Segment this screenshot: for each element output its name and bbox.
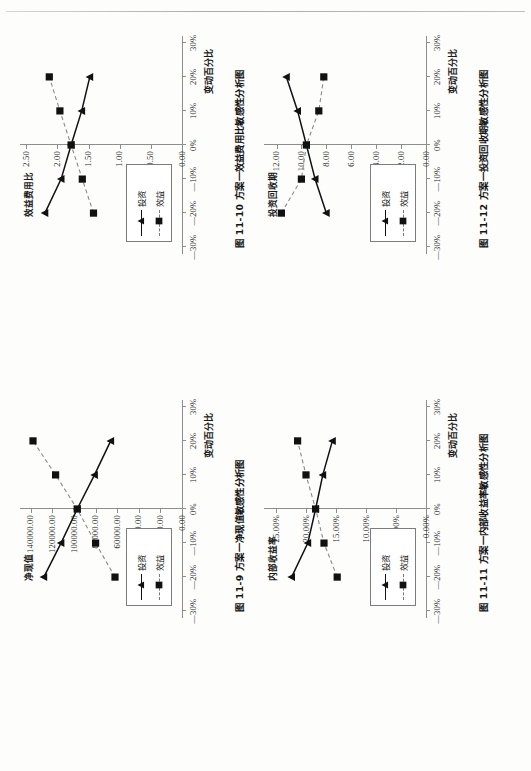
data-point-square <box>303 141 310 148</box>
data-point-triangle <box>57 175 65 183</box>
page-header-rule <box>6 11 525 12</box>
data-point-square <box>46 73 53 80</box>
legend-label: 投资 <box>135 191 147 207</box>
data-point-triangle <box>57 539 65 547</box>
data-point-square <box>302 471 309 478</box>
scanned-page: —30%—20%—10%0%10%20%30%0.0020000.0040000… <box>0 0 531 771</box>
data-point-square <box>52 471 59 478</box>
legend-label: 投资 <box>379 191 391 207</box>
legend-item-1: 效益 <box>397 191 409 236</box>
chart-legend <box>370 528 416 606</box>
legend-swatch-square <box>399 574 408 600</box>
figure-caption: 图 11-12 方案一投资回收期敏感性分析图 <box>476 70 490 248</box>
triangle-marker-icon <box>137 217 145 225</box>
legend-swatch-triangle <box>381 210 390 236</box>
data-point-square <box>90 210 97 217</box>
legend-label: 投资 <box>379 555 391 571</box>
data-point-square <box>29 437 36 444</box>
legend-item-1: 效益 <box>153 191 165 236</box>
legend-swatch-square <box>399 210 408 236</box>
square-marker-icon <box>155 217 163 225</box>
data-point-triangle <box>282 73 290 81</box>
data-point-square <box>111 574 118 581</box>
figure-block-11-12: —30%—20%—10%0%10%20%30%0.002.004.006.008… <box>250 28 498 328</box>
legend-item-0: 投资 <box>379 555 391 600</box>
chart-legend <box>370 164 416 242</box>
data-point-square <box>315 107 322 114</box>
figure-caption: 图 11-11 方案一内部收益率敏感性分析图 <box>476 434 490 612</box>
square-marker-icon <box>399 581 407 589</box>
legend-item-1: 效益 <box>397 555 409 600</box>
legend-item-0: 投资 <box>135 191 147 236</box>
figure-block-11-9: —30%—20%—10%0%10%20%30%0.0020000.0040000… <box>6 392 254 692</box>
data-point-square <box>334 574 341 581</box>
figure-caption: 图 11-10 方案一效益费用比敏感性分析图 <box>232 70 246 248</box>
figure-block-11-11: —30%—20%—10%0%10%20%30%0.00%5.00%10.00%1… <box>250 392 498 692</box>
legend-swatch-triangle <box>381 574 390 600</box>
data-point-square <box>74 505 81 512</box>
square-marker-icon <box>155 581 163 589</box>
data-point-triangle <box>40 573 48 581</box>
data-point-square <box>79 176 86 183</box>
legend-swatch-triangle <box>137 210 146 236</box>
square-marker-icon <box>399 217 407 225</box>
legend-label: 效益 <box>397 555 409 571</box>
data-point-square <box>92 540 99 547</box>
legend-item-0: 投资 <box>379 191 391 236</box>
data-point-square <box>320 540 327 547</box>
data-point-square <box>320 73 327 80</box>
legend-item-1: 效益 <box>153 555 165 600</box>
data-point-square <box>56 107 63 114</box>
chart-fig-11-12: —30%—20%—10%0%10%20%30%0.002.004.006.008… <box>250 28 498 328</box>
chart-legend <box>126 164 172 242</box>
legend-item-0: 投资 <box>135 555 147 600</box>
data-point-triangle <box>41 209 49 217</box>
chart-legend <box>126 528 172 606</box>
data-point-triangle <box>90 471 98 479</box>
legend-label: 效益 <box>153 191 165 207</box>
data-point-square <box>68 141 75 148</box>
figure-block-11-10: —30%—20%—10%0%10%20%30%0.000.501.001.502… <box>6 28 254 328</box>
triangle-marker-icon <box>381 217 389 225</box>
legend-swatch-square <box>155 210 164 236</box>
data-point-square <box>312 505 319 512</box>
data-point-triangle <box>287 573 295 581</box>
legend-label: 效益 <box>397 191 409 207</box>
data-point-triangle <box>107 437 115 445</box>
data-point-square <box>298 176 305 183</box>
legend-swatch-triangle <box>137 574 146 600</box>
data-point-square <box>278 210 285 217</box>
chart-fig-11-10: —30%—20%—10%0%10%20%30%0.000.501.001.502… <box>6 28 254 328</box>
chart-fig-11-9: —30%—20%—10%0%10%20%30%0.0020000.0040000… <box>6 392 254 692</box>
triangle-marker-icon <box>381 581 389 589</box>
triangle-marker-icon <box>137 581 145 589</box>
data-point-square <box>294 437 301 444</box>
data-point-triangle <box>304 539 312 547</box>
chart-fig-11-11: —30%—20%—10%0%10%20%30%0.00%5.00%10.00%1… <box>250 392 498 692</box>
figure-caption: 图 11-9 方案一净现值敏感性分析图 <box>232 459 246 612</box>
legend-label: 投资 <box>135 555 147 571</box>
legend-swatch-square <box>155 574 164 600</box>
legend-label: 效益 <box>153 555 165 571</box>
